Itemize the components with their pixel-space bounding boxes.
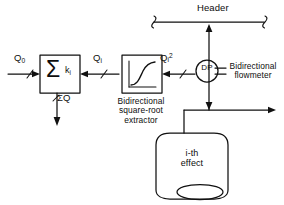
effect-vessel-label: i-th effect xyxy=(160,148,224,168)
header-label: Header xyxy=(197,3,229,14)
riser-down-arrowhead xyxy=(206,102,213,110)
qi-squared-label: Qi2 xyxy=(160,52,173,64)
riser-up-arrowhead xyxy=(206,24,213,32)
diagram-canvas: Header Q0 Qi Qi2 ΣQ DP Bidirectional squ… xyxy=(0,0,284,205)
summation-gain-label: ki xyxy=(65,65,71,76)
q0-label: Q0 xyxy=(14,53,25,64)
sum-q-arrowhead xyxy=(54,117,61,126)
extractor-response-curve xyxy=(131,62,155,85)
qi-label: Qi xyxy=(93,53,102,64)
bidirectional-flowmeter-label: Bidirectional flowmeter xyxy=(222,62,284,81)
square-root-extractor-label: Bidirectional square-root extractor xyxy=(102,97,180,125)
qi2-arrowhead xyxy=(162,71,170,77)
qi-arrowhead xyxy=(80,71,88,77)
sum-q-label: ΣQ xyxy=(57,93,70,104)
summation-symbol: Σ xyxy=(46,58,60,81)
vessel-outlet-arrowhead xyxy=(268,107,276,113)
q0-inlet-arrowhead xyxy=(32,71,40,77)
effect-vessel-bottom-head xyxy=(177,185,223,200)
dp-transmitter-label: DP xyxy=(196,64,218,73)
